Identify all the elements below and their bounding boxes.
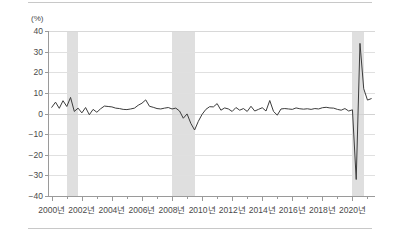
y-tick-label-30: 30 [0, 47, 43, 57]
x-tick-minor-2005 [127, 196, 128, 199]
y-tick-label--30: −30 [0, 170, 43, 180]
x-tick-label-2004: 2004년 [98, 203, 125, 215]
x-tick-major-2020 [352, 196, 353, 201]
x-tick-minor-2015 [277, 196, 278, 199]
x-tick-label-2020: 2020년 [339, 203, 366, 215]
x-tick-label-2002: 2002년 [68, 203, 95, 215]
x-tick-minor-2007 [157, 196, 158, 199]
x-tick-minor-2013 [247, 196, 248, 199]
figure-bottom-rule [28, 228, 372, 229]
y-tick-label--10: −10 [0, 129, 43, 139]
series-line-growth-rate [52, 43, 371, 179]
x-tick-minor-2009 [187, 196, 188, 199]
x-tick-major-2010 [202, 196, 203, 201]
y-tick-label-0: 0 [0, 109, 43, 119]
x-tick-label-2018: 2018년 [309, 203, 336, 215]
x-tick-minor-2011 [217, 196, 218, 199]
x-tick-major-2002 [82, 196, 83, 201]
x-tick-major-2006 [142, 196, 143, 201]
x-tick-minor-2017 [307, 196, 308, 199]
x-tick-label-2008: 2008년 [159, 203, 186, 215]
x-tick-major-2016 [292, 196, 293, 201]
y-tick-label-10: 10 [0, 88, 43, 98]
y-axis-unit-label: (%) [31, 14, 43, 23]
x-tick-minor-2021 [367, 196, 368, 199]
x-tick-minor-2003 [97, 196, 98, 199]
y-tick-label-40: 40 [0, 26, 43, 36]
figure-top-rule [28, 2, 372, 3]
x-tick-label-2006: 2006년 [128, 203, 155, 215]
x-tick-minor-2019 [337, 196, 338, 199]
x-tick-major-2018 [322, 196, 323, 201]
series-svg [48, 31, 375, 196]
x-tick-label-2016: 2016년 [279, 203, 306, 215]
plot-area [48, 31, 375, 196]
y-tick-label--20: −20 [0, 150, 43, 160]
x-tick-minor-2001 [67, 196, 68, 199]
x-tick-label-2010: 2010년 [189, 203, 216, 215]
x-tick-label-2012: 2012년 [219, 203, 246, 215]
x-tick-major-2012 [232, 196, 233, 201]
x-tick-major-2014 [262, 196, 263, 201]
x-tick-major-2008 [172, 196, 173, 201]
y-tick-label-20: 20 [0, 67, 43, 77]
x-tick-major-2004 [112, 196, 113, 201]
chart-figure: (%) 403020100−10−20−30−40 2000년2002년2004… [0, 0, 400, 242]
y-tick-label--40: −40 [0, 191, 43, 201]
x-tick-major-2000 [52, 196, 53, 201]
x-tick-label-2000: 2000년 [38, 203, 65, 215]
x-tick-label-2014: 2014년 [249, 203, 276, 215]
